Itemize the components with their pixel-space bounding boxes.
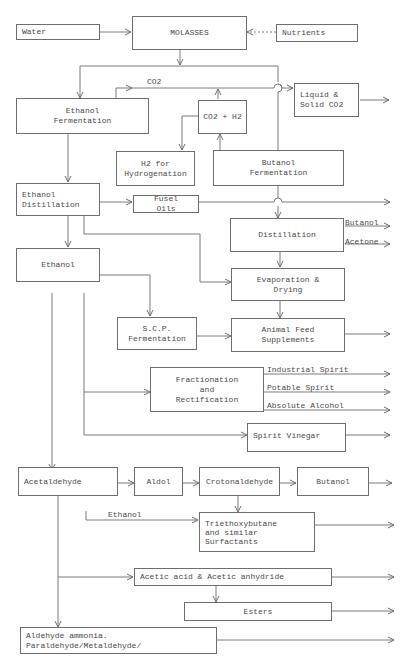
node-distillation: Distillation bbox=[230, 218, 344, 252]
label-ethanol-input: Ethanol bbox=[108, 510, 142, 519]
label-absolute-alcohol: Absolute Alcohol bbox=[267, 401, 344, 410]
node-acetaldehyde: Acetaldehyde bbox=[18, 467, 118, 496]
node-fractionation: Fractionation and Rectification bbox=[150, 367, 264, 412]
node-acetic-acid: Acetic acid & Acetic anhydride bbox=[134, 568, 332, 586]
node-liquid-solid-co2: Liquid & Solid CO2 bbox=[294, 83, 359, 117]
node-crotonaldehyde: Crotonaldehyde bbox=[199, 467, 280, 496]
node-fusel-oils: Fusel Oils bbox=[133, 195, 199, 213]
label-industrial-spirit: Industrial Spirit bbox=[267, 365, 349, 374]
node-molasses: MOLASSES bbox=[132, 16, 247, 50]
node-scp-fermentation: S.C.P. Fermentation bbox=[117, 317, 197, 350]
label-acetone-out: Acetone bbox=[345, 237, 379, 246]
node-ethanol-fermentation: Ethanol Fermentation bbox=[16, 98, 149, 134]
node-nutrients: Nutrients bbox=[276, 24, 358, 42]
node-evaporation-drying: Evaporation & Drying bbox=[231, 268, 345, 301]
aldehyde-ammonia-text: Aldehyde ammonia. Paraldehyde/Metaldehyd… bbox=[26, 631, 141, 651]
node-ethanol: Ethanol bbox=[16, 248, 100, 282]
node-butanol-fermentation: Butanol Fermentation bbox=[213, 150, 344, 186]
label-co2: CO2 bbox=[147, 77, 161, 86]
node-butanol-product: Butanol bbox=[297, 467, 369, 496]
node-spirit-vinegar: Spirit Vinegar bbox=[247, 423, 346, 452]
label-potable-spirit: Potable Spirit bbox=[267, 383, 334, 392]
node-ethanol-distillation: Ethanol Distillation bbox=[16, 183, 100, 216]
node-triethoxybutane: Triethoxybutane and similar Surfactants bbox=[199, 512, 315, 552]
node-water: Water bbox=[16, 24, 100, 40]
node-animal-feed: Animal Feed Supplements bbox=[231, 318, 345, 352]
node-aldehyde-ammonia: Aldehyde ammonia. Paraldehyde/Metaldehyd… bbox=[20, 627, 217, 654]
node-co2-h2: CO2 + H2 bbox=[198, 100, 247, 134]
label-butanol-out: Butanol bbox=[345, 218, 379, 227]
node-aldol: Aldol bbox=[134, 467, 183, 496]
node-h2-hydrogenation: H2 for Hydrogenation bbox=[116, 151, 195, 186]
node-esters: Esters bbox=[184, 602, 332, 621]
